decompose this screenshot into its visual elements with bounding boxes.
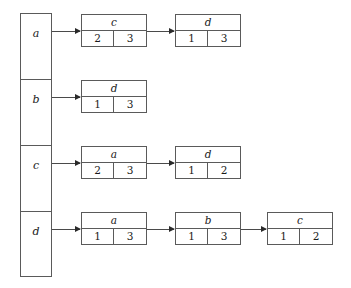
list-node-label: c — [297, 215, 303, 226]
list-node-header: d — [176, 15, 240, 31]
vertex-array-cell-0[interactable]: a — [21, 14, 51, 80]
list-node-cell-left: 1 — [176, 31, 208, 47]
list-node-value-right: 3 — [127, 99, 134, 110]
list-node-cell-right: 3 — [114, 97, 146, 113]
list-node-body: 1 2 — [176, 163, 240, 179]
list-node-row3-2[interactable]: c 1 2 — [267, 212, 333, 245]
list-node-label: b — [205, 215, 212, 226]
list-node-header: a — [82, 147, 146, 163]
arrow-row3-0to1 — [147, 229, 174, 230]
list-node-row2-1[interactable]: d 1 2 — [175, 146, 241, 179]
list-node-row3-0[interactable]: a 1 3 — [81, 212, 147, 245]
list-node-row3-1[interactable]: b 1 3 — [175, 212, 241, 245]
list-node-header: c — [82, 15, 146, 31]
vertex-array-label-0: a — [21, 28, 51, 39]
list-node-body: 1 3 — [82, 97, 146, 113]
vertex-array-label-2: c — [21, 160, 51, 171]
list-node-header: d — [176, 147, 240, 163]
list-node-cell-right: 3 — [114, 31, 146, 47]
list-node-row0-0[interactable]: c 2 3 — [81, 14, 147, 47]
arrow-row2-head — [52, 163, 80, 164]
list-node-cell-left: 1 — [82, 97, 114, 113]
list-node-row1-0[interactable]: d 1 3 — [81, 80, 147, 113]
vertex-array-label-3: d — [21, 226, 51, 237]
list-node-header: b — [176, 213, 240, 229]
list-node-value-left: 1 — [188, 33, 195, 44]
list-node-value-left: 1 — [94, 99, 101, 110]
list-node-value-right: 3 — [221, 33, 228, 44]
list-node-row0-1[interactable]: d 1 3 — [175, 14, 241, 47]
list-node-cell-right: 2 — [300, 229, 332, 245]
list-node-cell-left: 1 — [268, 229, 300, 245]
vertex-array-cell-3[interactable]: d — [21, 212, 51, 278]
list-node-cell-left: 2 — [82, 163, 114, 179]
list-node-value-left: 1 — [188, 231, 195, 242]
list-node-label: d — [205, 17, 212, 28]
list-node-value-left: 2 — [94, 33, 101, 44]
adjacency-list-diagram: a b c d c 2 3 d 1 — [0, 0, 351, 288]
arrow-row3-1to2 — [241, 229, 266, 230]
list-node-body: 1 2 — [268, 229, 332, 245]
list-node-value-left: 2 — [94, 165, 101, 176]
list-node-value-right: 2 — [313, 231, 320, 242]
list-node-cell-right: 2 — [208, 163, 240, 179]
list-node-body: 1 3 — [176, 229, 240, 245]
list-node-value-left: 1 — [94, 231, 101, 242]
list-node-cell-right: 3 — [208, 229, 240, 245]
list-node-cell-left: 1 — [82, 229, 114, 245]
list-node-cell-right: 3 — [114, 163, 146, 179]
list-node-body: 1 3 — [176, 31, 240, 47]
vertex-array-cell-1[interactable]: b — [21, 80, 51, 146]
arrow-row0-0to1 — [147, 31, 174, 32]
list-node-row2-0[interactable]: a 2 3 — [81, 146, 147, 179]
list-node-value-right: 3 — [221, 231, 228, 242]
vertex-array-cell-2[interactable]: c — [21, 146, 51, 212]
list-node-value-right: 3 — [127, 33, 134, 44]
list-node-value-right: 2 — [221, 165, 228, 176]
list-node-label: a — [111, 149, 117, 160]
list-node-header: c — [268, 213, 332, 229]
list-node-cell-right: 3 — [208, 31, 240, 47]
arrow-row3-head — [52, 229, 80, 230]
list-node-body: 2 3 — [82, 163, 146, 179]
list-node-value-left: 1 — [188, 165, 195, 176]
list-node-cell-left: 1 — [176, 163, 208, 179]
list-node-cell-left: 1 — [176, 229, 208, 245]
list-node-label: c — [111, 17, 117, 28]
vertex-array-label-1: b — [21, 94, 51, 105]
arrow-row0-head — [52, 31, 80, 32]
list-node-value-left: 1 — [280, 231, 287, 242]
list-node-label: d — [111, 83, 118, 94]
list-node-value-right: 3 — [127, 165, 134, 176]
list-node-header: d — [82, 81, 146, 97]
vertex-array: a b c d — [20, 13, 52, 277]
list-node-body: 1 3 — [82, 229, 146, 245]
list-node-label: d — [205, 149, 212, 160]
list-node-label: a — [111, 215, 117, 226]
list-node-header: a — [82, 213, 146, 229]
list-node-body: 2 3 — [82, 31, 146, 47]
list-node-cell-right: 3 — [114, 229, 146, 245]
arrow-row1-head — [52, 97, 80, 98]
list-node-cell-left: 2 — [82, 31, 114, 47]
arrow-row2-0to1 — [147, 163, 174, 164]
list-node-value-right: 3 — [127, 231, 134, 242]
